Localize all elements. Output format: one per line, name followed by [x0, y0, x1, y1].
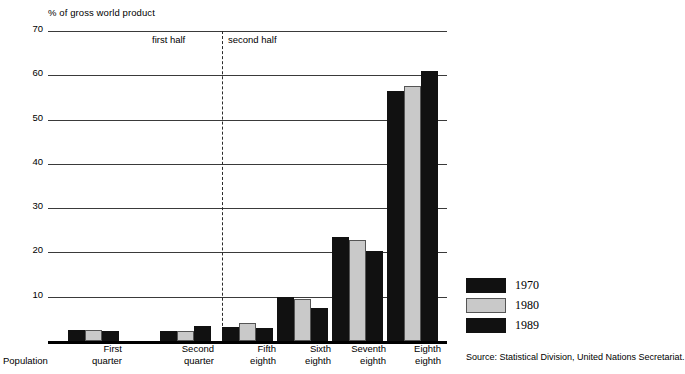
source-note: Source: Statistical Division, United Nat… [466, 352, 685, 362]
plot-area: 10203040506070 first half second half [48, 31, 447, 341]
legend-swatch-1980 [466, 298, 506, 313]
category-label-line: quarter [50, 355, 122, 367]
y-axis-title: % of gross world product [48, 7, 155, 18]
category-label-eighth-eighth: Eightheighth [369, 343, 441, 366]
y-tick-20: 20 [32, 244, 43, 255]
bar-group-seventh-eighth [332, 31, 383, 341]
legend-swatch-1970 [466, 278, 506, 293]
bar-1989-sixth-eighth [311, 308, 328, 341]
legend-swatch-1989 [466, 318, 506, 333]
bar-1970-first-quarter [68, 330, 85, 341]
bar-group-fifth-eighth [222, 31, 273, 341]
bar-1980-seventh-eighth [349, 240, 366, 341]
bar-1970-eighth-eighth [387, 91, 404, 341]
bar-group-eighth-eighth [387, 31, 438, 341]
bar-1970-sixth-eighth [277, 297, 294, 341]
bar-1970-second-quarter [160, 331, 177, 341]
legend-item-1970: 1970 [466, 278, 539, 293]
bar-1980-fifth-eighth [239, 323, 256, 341]
y-tick-10: 10 [32, 289, 43, 300]
bar-group-sixth-eighth [277, 31, 328, 341]
bar-1970-fifth-eighth [222, 327, 239, 341]
bar-1989-fifth-eighth [256, 328, 273, 341]
y-tick-50: 50 [32, 112, 43, 123]
legend-label-1970: 1970 [515, 278, 539, 293]
bar-1989-second-quarter [194, 326, 211, 341]
legend: 197019801989 [466, 278, 539, 338]
legend-item-1989: 1989 [466, 318, 539, 333]
bar-1980-first-quarter [85, 330, 102, 341]
bar-1989-seventh-eighth [366, 251, 383, 341]
y-tick-70: 70 [32, 23, 43, 34]
bar-1970-seventh-eighth [332, 237, 349, 341]
bar-group-first-quarter [68, 31, 119, 341]
bar-group-second-quarter [160, 31, 211, 341]
category-label-line: Eighth [369, 343, 441, 355]
y-tick-40: 40 [32, 156, 43, 167]
y-tick-60: 60 [32, 67, 43, 78]
bar-1989-first-quarter [102, 331, 119, 341]
bar-1980-eighth-eighth [404, 86, 421, 341]
legend-label-1989: 1989 [515, 318, 539, 333]
category-label-line: First [50, 343, 122, 355]
bar-1980-second-quarter [177, 331, 194, 341]
x-axis-label: Population [3, 355, 48, 366]
legend-label-1980: 1980 [515, 298, 539, 313]
bar-1989-eighth-eighth [421, 71, 438, 341]
legend-item-1980: 1980 [466, 298, 539, 313]
y-tick-30: 30 [32, 200, 43, 211]
category-label-line: eighth [369, 355, 441, 367]
category-label-first-quarter: Firstquarter [50, 343, 122, 366]
bar-1980-sixth-eighth [294, 299, 311, 341]
